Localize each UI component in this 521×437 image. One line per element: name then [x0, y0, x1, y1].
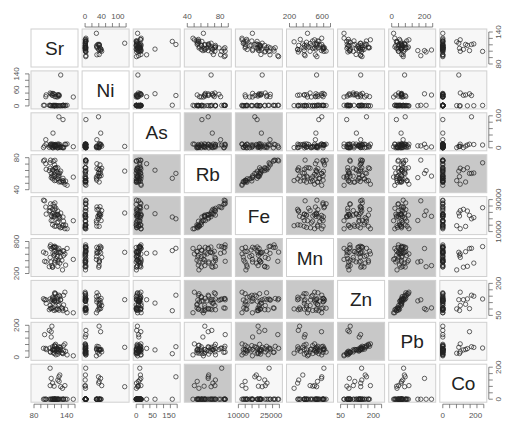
tick-label: 60 — [12, 85, 21, 94]
panel-Zn-vs-Fe — [235, 280, 282, 318]
panel-Mn-vs-As — [133, 239, 180, 277]
axis: 50200 — [489, 276, 503, 320]
variable-label: Mn — [297, 248, 323, 269]
panel-As-vs-As: As — [133, 113, 180, 151]
panel-Mn-vs-Ni — [82, 239, 129, 277]
panel-As-vs-Zn — [338, 113, 385, 151]
tick-label: 80 — [216, 12, 225, 21]
panel-As-vs-Fe — [235, 113, 282, 151]
tick-label: 0 — [134, 411, 139, 420]
tick-label: 10000 — [227, 411, 250, 420]
panel-Pb-vs-Sr — [31, 322, 78, 360]
tick-label: 10000 — [494, 220, 503, 243]
axis: 1000025000 — [227, 404, 283, 420]
panel-Rb-vs-Ni — [82, 155, 129, 193]
tick-label: 80 — [12, 153, 21, 162]
tick-label: 0 — [389, 12, 394, 21]
panel-Mn-vs-Pb — [389, 239, 436, 277]
panel-Pb-vs-Fe — [235, 322, 282, 360]
tick-label: 80 — [30, 411, 39, 420]
panel-Fe-vs-Sr — [31, 197, 78, 235]
panel-Rb-vs-Rb: Rb — [184, 155, 231, 193]
axis: 040100 — [83, 12, 126, 27]
tick-label: 30000 — [494, 188, 503, 211]
variable-label: Fe — [248, 206, 270, 227]
variable-label: Sr — [45, 38, 65, 59]
panel-As-vs-Co — [440, 113, 487, 151]
panel-Mn-vs-Sr — [31, 239, 78, 277]
panel-Ni-vs-Ni: Ni — [82, 71, 129, 109]
tick-label: 800 — [12, 234, 21, 248]
panel-Co-vs-Sr — [31, 364, 78, 402]
variable-label: Pb — [401, 331, 424, 352]
panel-Ni-vs-Co — [440, 71, 487, 109]
panel-Ni-vs-As — [133, 71, 180, 109]
tick-label: 150 — [162, 411, 176, 420]
axis: 4080 — [12, 153, 29, 194]
axis: 060140 — [12, 67, 29, 108]
panel-Co-vs-Fe — [235, 364, 282, 402]
panel-Zn-vs-As — [133, 280, 180, 318]
panel-Co-vs-Rb — [184, 364, 231, 402]
tick-label: 25000 — [260, 411, 283, 420]
panel-Fe-vs-Co — [440, 197, 487, 235]
variable-label: Ni — [97, 80, 115, 101]
panel-As-vs-Pb — [389, 113, 436, 151]
tick-label: 50 — [148, 411, 157, 420]
axis: 0100 — [489, 109, 503, 150]
scatterplot-matrix: SrNiAsRbFeMnZnPbCo0401004080200600020080… — [0, 0, 521, 437]
panel-Sr-vs-Zn — [338, 29, 385, 67]
tick-label: 0 — [12, 355, 21, 360]
panel-Zn-vs-Ni — [82, 280, 129, 318]
panel-Rb-vs-Co — [440, 155, 487, 193]
panel-Rb-vs-Pb — [389, 155, 436, 193]
panel-Fe-vs-Pb — [389, 197, 436, 235]
tick-label: 200 — [469, 411, 483, 420]
panel-Fe-vs-Ni — [82, 197, 129, 235]
axis: 0200 — [489, 360, 503, 401]
tick-label: 50 — [494, 310, 503, 319]
panel-Sr-vs-Ni — [82, 29, 129, 67]
tick-label: 200 — [418, 12, 432, 21]
tick-label: 100 — [111, 12, 125, 21]
panel-Fe-vs-Fe: Fe — [235, 197, 282, 235]
panel-Pb-vs-Co — [440, 322, 487, 360]
panel-Zn-vs-Co — [440, 280, 487, 318]
tick-label: 0 — [83, 12, 88, 21]
panel-Sr-vs-Rb — [184, 29, 231, 67]
tick-label: 600 — [316, 12, 330, 21]
panel-Pb-vs-Mn — [287, 322, 334, 360]
panel-Sr-vs-Fe — [235, 29, 282, 67]
panel-Sr-vs-Mn — [287, 29, 334, 67]
panel-Zn-vs-Rb — [184, 280, 231, 318]
panel-Ni-vs-Sr — [31, 71, 78, 109]
panel-Pb-vs-As — [133, 322, 180, 360]
panel-As-vs-Sr — [31, 113, 78, 151]
tick-label: 0 — [12, 103, 21, 108]
panel-As-vs-Ni — [82, 113, 129, 151]
tick-label: 0 — [494, 145, 503, 150]
axis: 200600 — [283, 12, 331, 27]
tick-label: 140 — [494, 25, 503, 39]
panel-Sr-vs-Sr: Sr — [31, 29, 78, 67]
variable-label: Rb — [196, 164, 220, 185]
panel-Sr-vs-As — [133, 29, 180, 67]
panel-Pb-vs-Ni — [82, 322, 129, 360]
panel-Rb-vs-Sr — [31, 155, 78, 193]
variable-label: Co — [451, 373, 475, 394]
variable-label: As — [146, 122, 168, 143]
tick-label: 140 — [12, 67, 21, 81]
tick-label: 200 — [367, 411, 381, 420]
panel-Rb-vs-As — [133, 155, 180, 193]
panel-As-vs-Mn — [287, 113, 334, 151]
panel-Pb-vs-Pb: Pb — [389, 322, 436, 360]
panel-Mn-vs-Rb — [184, 239, 231, 277]
axis: 1000030000 — [489, 188, 503, 243]
panel-Fe-vs-As — [133, 197, 180, 235]
axis: 200800 — [12, 234, 29, 280]
tick-label: 40 — [12, 185, 21, 194]
panel-Fe-vs-Rb — [184, 197, 231, 235]
panel-Zn-vs-Sr — [31, 280, 78, 318]
panel-Sr-vs-Co — [440, 29, 487, 67]
panel-Fe-vs-Mn — [287, 197, 334, 235]
